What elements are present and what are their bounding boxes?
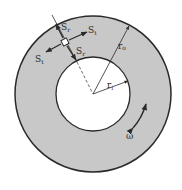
rotating-disk-diagram: Sr St St Sr ro ri ω bbox=[0, 0, 182, 190]
label-omega: ω bbox=[126, 131, 133, 141]
